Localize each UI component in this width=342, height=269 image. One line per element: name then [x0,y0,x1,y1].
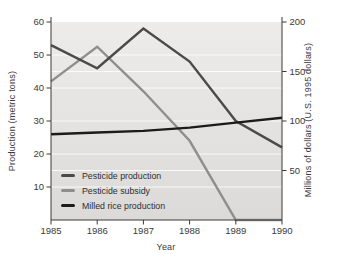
x-tick-label: 1989 [225,225,246,236]
x-tick-label: 1990 [271,225,292,236]
x-axis-title: Year [157,242,176,252]
left-tick-label: 40 [33,82,44,93]
right-tick-label: 50 [290,165,301,176]
legend-swatch-pesticide-production [61,174,75,178]
legend: Pesticide production Pesticide subsidy M… [61,170,165,211]
legend-item-milled-rice-production: Milled rice production [61,200,165,211]
left-tick-label: 50 [33,49,44,60]
left-tick-label: 10 [33,181,44,192]
legend-swatch-milled-rice-production [61,204,75,208]
legend-label: Pesticide subsidy [82,186,150,196]
legend-item-pesticide-production: Pesticide production [61,170,165,181]
legend-label: Milled rice production [82,201,165,211]
legend-swatch-pesticide-subsidy [61,189,75,193]
left-tick-label: 20 [33,148,44,159]
legend-label: Pesticide production [82,171,161,181]
left-axis-title: Production (metric tons) [7,71,17,171]
x-tick-label: 1987 [133,225,154,236]
x-tick-label: 1986 [87,225,108,236]
left-tick-label: 60 [33,16,44,27]
legend-item-pesticide-subsidy: Pesticide subsidy [61,185,165,196]
left-tick-label: 30 [33,115,44,126]
line-chart-canvas: 1020304050605010015020019851986198719881… [0,0,342,269]
chart-figure: 1020304050605010015020019851986198719881… [0,0,342,269]
right-tick-label: 200 [290,16,306,27]
right-axis-title: Millions of dollars (U.S. 1995 dollars) [303,43,313,197]
x-tick-label: 1988 [179,225,200,236]
x-tick-label: 1985 [40,225,61,236]
